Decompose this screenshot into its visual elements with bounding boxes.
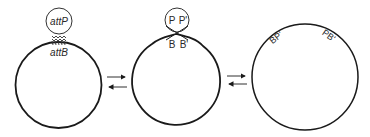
equilibrium-arrows-1	[107, 77, 127, 87]
bacterial-chromosome-circle-2	[132, 34, 220, 125]
P-prime-label: P'	[179, 15, 188, 26]
stage3-group: BP' PB'	[252, 24, 358, 130]
P-label: P	[169, 15, 176, 26]
B-prime-label: B'	[180, 39, 189, 50]
B-label: B	[169, 39, 176, 50]
BP-prime-label: BP'	[268, 29, 285, 46]
PB-prime-label: PB'	[320, 28, 337, 44]
stage1-group: attP attB	[16, 8, 102, 128]
recombination-diagram: attP attB P P' B B' BP' PB'	[0, 0, 370, 137]
attB-label: attB	[50, 47, 68, 58]
equilibrium-arrows-2	[227, 76, 247, 84]
attP-label: attP	[50, 16, 68, 27]
integrated-chromosome-circle	[252, 24, 358, 130]
pairing-zigzag-icon	[52, 36, 66, 45]
stage2-group: P P' B B'	[132, 8, 220, 125]
